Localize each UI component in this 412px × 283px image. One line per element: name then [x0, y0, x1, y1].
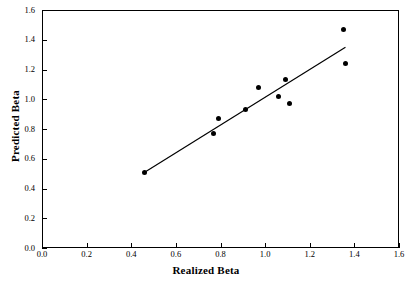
data-point	[142, 170, 147, 175]
data-point	[216, 116, 221, 121]
x-tick-mark	[221, 243, 222, 248]
scatter-chart-figure: 0.00.20.40.60.81.01.21.41.6 0.00.20.40.6…	[0, 0, 412, 283]
x-tick-label: 1.6	[384, 250, 412, 259]
x-tick-mark	[42, 243, 43, 248]
y-tick-mark	[42, 159, 47, 160]
data-point	[276, 94, 281, 99]
x-tick-label: 0.4	[116, 250, 146, 259]
x-tick-mark	[354, 243, 355, 248]
y-tick-label: 0.2	[1, 214, 35, 223]
y-tick-mark	[42, 218, 47, 219]
y-tick-mark	[42, 70, 47, 71]
x-tick-mark	[131, 243, 132, 248]
y-axis-title: Predicted Beta	[9, 61, 23, 191]
x-axis-title: Realized Beta	[0, 264, 412, 276]
x-tick-label: 0.0	[27, 250, 57, 259]
y-axis-title-text: Predicted Beta	[9, 61, 21, 191]
x-tick-label: 1.0	[250, 250, 280, 259]
x-tick-label: 1.4	[339, 250, 369, 259]
x-tick-mark	[310, 243, 311, 248]
y-tick-mark	[42, 99, 47, 100]
y-tick-mark	[42, 10, 47, 11]
x-tick-label: 0.8	[206, 250, 236, 259]
data-point	[343, 61, 348, 66]
y-tick-label: 1.4	[1, 35, 35, 44]
x-tick-mark	[176, 243, 177, 248]
x-tick-mark	[87, 243, 88, 248]
x-tick-mark	[265, 243, 266, 248]
y-tick-mark	[42, 189, 47, 190]
y-tick-mark	[42, 129, 47, 130]
data-point	[256, 85, 261, 90]
x-tick-label: 0.6	[161, 250, 191, 259]
plot-canvas	[42, 10, 399, 248]
x-tick-mark	[399, 243, 400, 248]
y-tick-mark	[42, 40, 47, 41]
data-point	[341, 27, 346, 32]
regression-line	[42, 10, 399, 248]
data-point	[243, 107, 248, 112]
x-tick-label: 0.2	[72, 250, 102, 259]
x-tick-label: 1.2	[295, 250, 325, 259]
y-tick-label: 1.6	[1, 6, 35, 15]
